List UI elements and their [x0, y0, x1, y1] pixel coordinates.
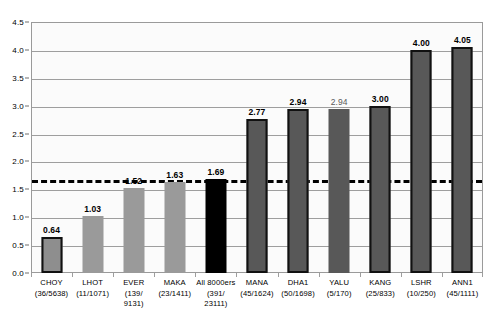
x-tick-mark — [72, 273, 73, 277]
bar-group: 1.63 — [154, 22, 195, 273]
bar-value-label: 4.05 — [454, 35, 471, 45]
bar — [452, 47, 473, 273]
bar-chart: 0.00.51.01.52.02.53.03.54.04.5 0.641.031… — [0, 0, 489, 313]
x-tick-mark — [278, 273, 279, 277]
bar-value-label: 1.52 — [125, 176, 142, 186]
bar — [41, 237, 62, 273]
bar-value-label: 2.94 — [331, 97, 348, 107]
bar-group: 1.52 — [113, 22, 154, 273]
x-tick-mark — [360, 273, 361, 277]
bar — [288, 109, 309, 273]
y-tick-label: 3.5 — [12, 73, 24, 82]
y-tick-mark — [25, 105, 29, 106]
y-axis: 0.00.51.01.52.02.53.03.54.04.5 — [0, 22, 29, 273]
bar-group: 1.03 — [72, 22, 113, 273]
x-tick-mark — [31, 273, 32, 277]
bar-group: 1.69 — [195, 22, 236, 273]
y-tick-label: 0.5 — [12, 241, 24, 250]
bar-value-label: 3.00 — [372, 94, 389, 104]
bar-value-label: 4.00 — [413, 38, 430, 48]
bar — [370, 106, 391, 273]
y-tick-label: 2.5 — [12, 129, 24, 138]
y-tick-label: 0.0 — [12, 269, 24, 278]
x-tick-mark — [236, 273, 237, 277]
bar-group: 0.64 — [31, 22, 72, 273]
bar-value-label: 0.64 — [43, 225, 60, 235]
x-tick-mark — [319, 273, 320, 277]
bar-value-label: 2.94 — [290, 97, 307, 107]
y-tick-label: 4.0 — [12, 45, 24, 54]
bar — [329, 109, 350, 273]
y-tick-label: 3.0 — [12, 101, 24, 110]
x-tick-mark — [442, 273, 443, 277]
bar-group: 2.77 — [236, 22, 277, 273]
x-tick-mark — [113, 273, 114, 277]
bar-value-label: 1.63 — [166, 170, 183, 180]
y-tick-mark — [25, 161, 29, 162]
y-tick-mark — [25, 49, 29, 50]
x-axis: CHOY (36/5638)LHOT (11/1071)EVER (139/ 9… — [31, 273, 483, 313]
bar-value-label: 1.69 — [207, 167, 224, 177]
y-tick-mark — [25, 273, 29, 274]
bar — [82, 216, 103, 273]
y-tick-mark — [25, 245, 29, 246]
y-tick-label: 1.0 — [12, 213, 24, 222]
y-tick-label: 2.0 — [12, 157, 24, 166]
x-tick-label: ANN1 (45/1111) — [436, 278, 489, 299]
x-tick-mark — [401, 273, 402, 277]
x-tick-mark — [154, 273, 155, 277]
bar — [164, 182, 185, 273]
bar-value-label: 1.03 — [84, 204, 101, 214]
y-tick-mark — [25, 22, 29, 23]
bar — [123, 188, 144, 273]
bar — [411, 50, 432, 273]
bar-group: 2.94 — [319, 22, 360, 273]
bar-group: 4.00 — [401, 22, 442, 273]
bars-layer: 0.641.031.521.631.692.772.942.943.004.00… — [31, 22, 483, 273]
bar-group: 4.05 — [442, 22, 483, 273]
bar-group: 3.00 — [360, 22, 401, 273]
y-tick-label: 1.5 — [12, 185, 24, 194]
y-tick-label: 4.5 — [12, 18, 24, 27]
y-tick-mark — [25, 189, 29, 190]
bar-value-label: 2.77 — [249, 107, 266, 117]
y-tick-mark — [25, 133, 29, 134]
bar — [205, 179, 226, 273]
y-tick-mark — [25, 217, 29, 218]
x-tick-mark — [195, 273, 196, 277]
x-tick-mark — [482, 273, 483, 277]
y-tick-mark — [25, 77, 29, 78]
bar-group: 2.94 — [278, 22, 319, 273]
bar — [246, 119, 267, 274]
